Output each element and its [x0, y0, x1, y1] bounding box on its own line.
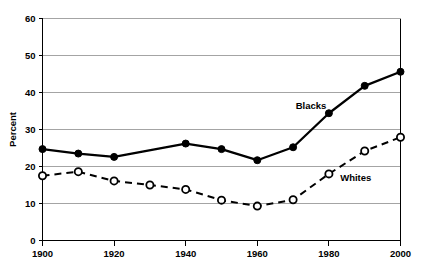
x-tick-label: 1940: [175, 248, 196, 259]
data-point-whites: [111, 177, 118, 184]
data-point-whites: [182, 186, 189, 193]
data-point-whites: [397, 134, 404, 141]
data-point-whites: [254, 202, 261, 209]
data-point-whites: [218, 197, 225, 204]
data-point-blacks: [111, 153, 118, 160]
y-tick-label: 10: [25, 198, 36, 209]
data-point-blacks: [361, 82, 368, 89]
data-point-blacks: [182, 140, 189, 147]
data-point-blacks: [325, 110, 332, 117]
series-lines-group: [43, 72, 401, 206]
y-tick-label: 60: [25, 13, 36, 24]
y-tick-label: 50: [25, 50, 36, 61]
y-tick-label: 30: [25, 124, 36, 135]
x-tick-label: 1980: [318, 248, 339, 259]
x-tick-label: 2000: [390, 248, 411, 259]
chart-canvas: 190019201940196019802000 0102030405060 P…: [0, 0, 422, 272]
y-axis-ticks-group: [39, 19, 43, 241]
data-point-whites: [325, 170, 332, 177]
data-point-blacks: [218, 146, 225, 153]
data-point-whites: [75, 168, 82, 175]
y-axis-title: Percent: [7, 111, 18, 147]
data-point-whites: [290, 196, 297, 203]
data-point-blacks: [290, 144, 297, 151]
data-point-blacks: [254, 157, 261, 164]
data-point-blacks: [397, 68, 404, 75]
x-tick-label: 1920: [104, 248, 125, 259]
y-tick-label: 40: [25, 87, 36, 98]
y-tick-label: 0: [30, 235, 35, 246]
data-point-whites: [39, 172, 46, 179]
series-label-blacks: Blacks: [296, 100, 327, 111]
x-axis-tick-labels: 190019201940196019802000: [32, 248, 411, 259]
x-tick-label: 1960: [247, 248, 268, 259]
line-chart: 190019201940196019802000 0102030405060 P…: [0, 0, 422, 272]
data-point-blacks: [39, 146, 46, 153]
data-point-whites: [361, 147, 368, 154]
data-point-blacks: [75, 150, 82, 157]
y-tick-label: 20: [25, 161, 36, 172]
series-label-whites: Whites: [340, 172, 371, 183]
series-markers-group: [39, 68, 404, 209]
x-axis-ticks-group: [43, 241, 401, 246]
data-point-whites: [146, 181, 153, 188]
x-tick-label: 1900: [32, 248, 53, 259]
y-axis-tick-labels: 0102030405060: [25, 13, 36, 246]
